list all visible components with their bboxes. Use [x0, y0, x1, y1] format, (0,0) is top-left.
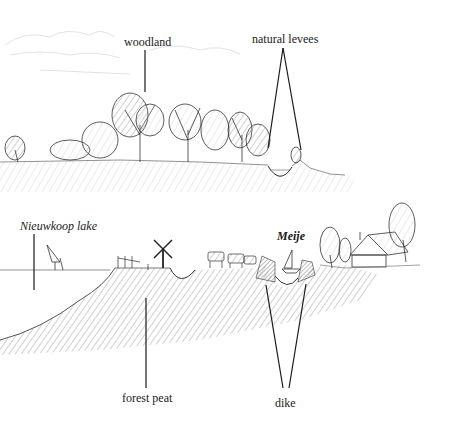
- windsurfer: [47, 245, 63, 270]
- sky-clouds: [5, 31, 240, 74]
- label-forest-peat: forest peat: [122, 392, 172, 404]
- cows: [208, 252, 256, 268]
- upper-ground: [0, 160, 355, 192]
- label-natural-levees: natural levees: [252, 33, 318, 45]
- label-woodland: woodland: [124, 36, 171, 48]
- levee-pointer-right: [283, 48, 301, 150]
- forest-peat-body: [0, 265, 380, 355]
- upper-panel: [0, 31, 355, 192]
- label-meije: Meije: [277, 230, 305, 242]
- sailboat: [282, 250, 300, 273]
- label-dike: dike: [275, 397, 296, 409]
- windmill: [154, 240, 172, 268]
- label-nieuwkoop-lake: Nieuwkoop lake: [20, 220, 97, 232]
- woodland-trees: [5, 93, 301, 163]
- dike-left: [256, 256, 275, 282]
- levee-pointer-left: [268, 48, 283, 148]
- landscape-illustration: [0, 0, 450, 432]
